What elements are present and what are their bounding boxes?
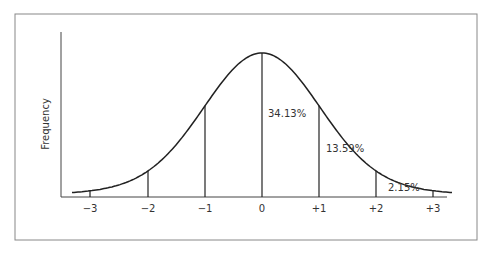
pct-label-2: 2.15% [388, 182, 420, 193]
x-tick-minus-2: −2 [141, 203, 156, 214]
x-tick-plus-1: +1 [312, 203, 327, 214]
x-tick-0: 0 [259, 203, 265, 214]
pct-label-34: 34.13% [268, 108, 306, 119]
x-tick-plus-2: +2 [369, 203, 384, 214]
x-tick-minus-1: −1 [198, 203, 213, 214]
y-axis-label: Frequency [40, 98, 51, 150]
pct-label-13: 13.59% [326, 143, 364, 154]
x-tick-minus-3: −3 [83, 203, 98, 214]
x-tick-plus-3: +3 [426, 203, 441, 214]
normal-distribution-chart: Frequency −3 −2 −1 0 +1 +2 +3 34.13% 13.… [0, 0, 493, 253]
